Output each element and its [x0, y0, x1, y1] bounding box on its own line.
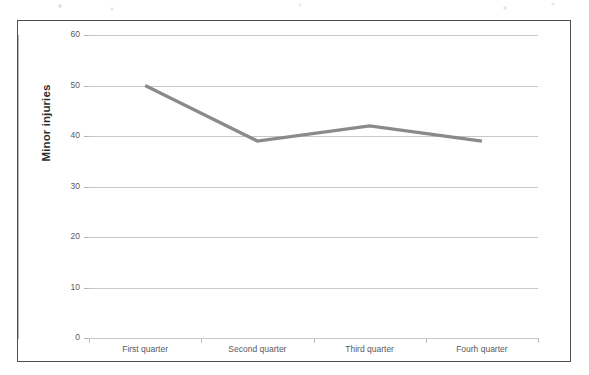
x-tick-label: First quarter	[89, 345, 201, 354]
gridline	[89, 338, 538, 339]
scan-artifact	[0, 0, 589, 18]
y-tick-label: 20	[40, 232, 80, 241]
y-tick-label: 50	[40, 81, 80, 90]
y-axis-line	[18, 35, 19, 339]
y-tick-label: 40	[40, 131, 80, 140]
x-tick-label: Second quarter	[201, 345, 313, 354]
x-tick-label: Third quarter	[314, 345, 426, 354]
plot-area	[89, 35, 538, 338]
chart-frame: Minor injuries 0102030405060 First quart…	[17, 20, 571, 362]
y-tick-label: 60	[40, 30, 80, 39]
series-line	[145, 86, 482, 142]
y-tick-label: 30	[40, 182, 80, 191]
y-axis-title: Minor injuries	[40, 43, 52, 203]
y-tick-label: 0	[40, 333, 80, 342]
x-tick-mark	[538, 338, 539, 343]
x-tick-label: Fourh quarter	[426, 345, 538, 354]
chart-canvas: Minor injuries 0102030405060 First quart…	[18, 21, 572, 363]
line-series-minor-injuries	[89, 35, 538, 338]
y-tick-label: 10	[40, 283, 80, 292]
